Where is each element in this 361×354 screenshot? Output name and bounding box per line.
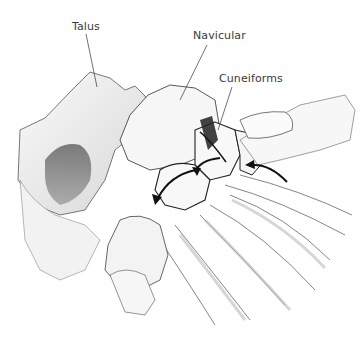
cuneiforms-leader-line bbox=[218, 87, 232, 130]
talus-label: Talus bbox=[72, 20, 100, 33]
cuneiforms-label: Cuneiforms bbox=[219, 72, 283, 85]
metatarsal-shading bbox=[180, 200, 325, 320]
foot-bones-illustration: Talus Navicular Cuneiforms bbox=[0, 0, 361, 354]
illustration-canvas bbox=[0, 0, 361, 354]
navicular-label: Navicular bbox=[193, 29, 246, 42]
